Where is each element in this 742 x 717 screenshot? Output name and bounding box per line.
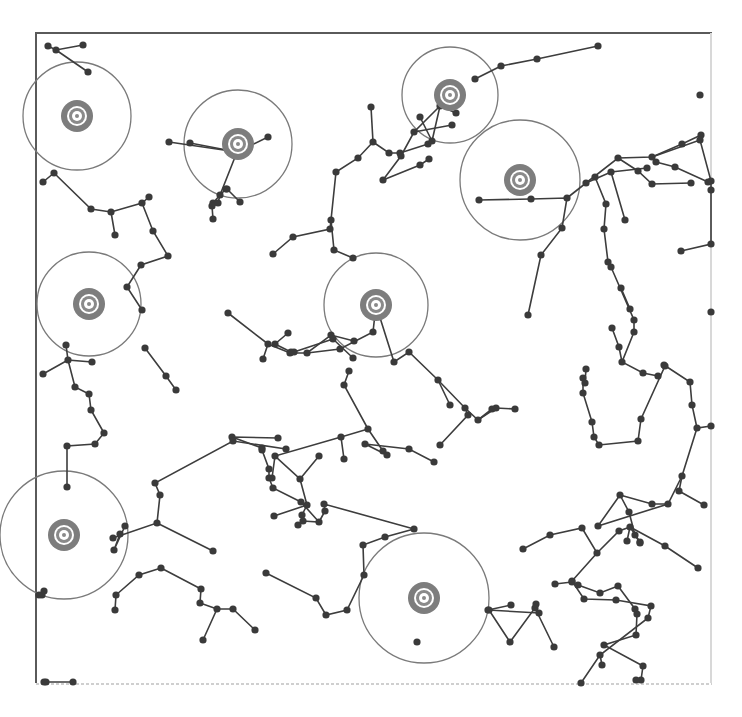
tree-edge xyxy=(440,408,468,445)
sensor-node xyxy=(707,186,714,193)
sensor-node xyxy=(532,600,539,607)
tree-edge xyxy=(113,441,286,538)
tree-edges xyxy=(42,45,711,683)
sensor-node xyxy=(700,501,707,508)
diagram-frame xyxy=(35,33,712,684)
sensor-node xyxy=(602,200,609,207)
sensor-node xyxy=(209,547,216,554)
tree-edge xyxy=(608,262,634,332)
sensor-node xyxy=(648,180,655,187)
target-icon xyxy=(504,164,536,196)
sensor-node xyxy=(448,121,455,128)
sensor-node xyxy=(196,599,203,606)
sensor-node xyxy=(109,534,116,541)
sensor-node xyxy=(687,179,694,186)
tree-edge xyxy=(157,523,213,551)
sensor-node xyxy=(593,549,600,556)
tree-edge xyxy=(273,220,331,254)
sensor-node xyxy=(367,103,374,110)
sensor-node xyxy=(350,337,357,344)
sensor-node xyxy=(623,537,630,544)
sensor-node xyxy=(164,252,171,259)
sensor-node xyxy=(297,498,304,505)
tree-edge xyxy=(475,66,501,79)
sensor-node xyxy=(369,328,376,335)
sensor-node xyxy=(607,263,614,270)
sensor-node xyxy=(62,341,69,348)
sensor-node xyxy=(675,487,682,494)
tree-edge xyxy=(203,609,217,640)
sensor-node xyxy=(85,390,92,397)
sensor-node xyxy=(507,601,514,608)
sensor-node xyxy=(636,539,643,546)
sensor-node xyxy=(688,401,695,408)
sensor-node xyxy=(44,42,51,49)
sensor-node xyxy=(327,216,334,223)
sensor-node xyxy=(91,440,98,447)
sensor-node xyxy=(296,475,303,482)
sensor-node xyxy=(340,455,347,462)
network-diagram xyxy=(0,0,742,717)
sensor-node xyxy=(574,581,581,588)
target-icon xyxy=(73,288,105,320)
sensor-node xyxy=(71,383,78,390)
sensor-node xyxy=(471,75,478,82)
sensor-node xyxy=(405,348,412,355)
target-center-dot xyxy=(62,533,66,537)
sensor-node xyxy=(671,163,678,170)
sensor-node xyxy=(694,564,701,571)
sensor-node xyxy=(416,161,423,168)
target-icon xyxy=(61,100,93,132)
sensor-node xyxy=(506,638,513,645)
sensor-node xyxy=(626,305,633,312)
sensor-node xyxy=(410,128,417,135)
tree-edge xyxy=(656,162,708,182)
sensor-node xyxy=(88,358,95,365)
sensor-node xyxy=(315,518,322,525)
sensor-node xyxy=(621,216,628,223)
sensor-node xyxy=(149,227,156,234)
sensor-node xyxy=(84,68,91,75)
tree-edge xyxy=(344,371,383,451)
sensor-node xyxy=(111,231,118,238)
sensor-node xyxy=(614,582,621,589)
sensor-node xyxy=(165,138,172,145)
target-center-dot xyxy=(448,93,452,97)
sensor-node xyxy=(138,199,145,206)
tree-edge xyxy=(681,190,711,251)
sensor-node xyxy=(537,251,544,258)
sensor-node xyxy=(461,404,468,411)
sensor-node xyxy=(223,185,230,192)
sensor-node xyxy=(594,42,601,49)
sensor-node xyxy=(259,355,266,362)
sensor-node xyxy=(209,215,216,222)
target-center-dot xyxy=(236,142,240,146)
tree-edge xyxy=(43,173,149,212)
target-center-dot xyxy=(75,114,79,118)
sensor-node xyxy=(298,511,305,518)
sensor-node xyxy=(157,564,164,571)
sensor-node xyxy=(582,365,589,372)
sensor-node xyxy=(618,358,625,365)
sensor-node xyxy=(262,569,269,576)
sensor-node xyxy=(519,545,526,552)
sensor-node xyxy=(474,416,481,423)
sensor-node xyxy=(661,542,668,549)
sensor-node xyxy=(652,158,659,165)
sensor-node xyxy=(123,283,130,290)
sensor-node xyxy=(35,591,42,598)
target-icon xyxy=(222,128,254,160)
sensor-node xyxy=(265,465,272,472)
sensor-node xyxy=(349,254,356,261)
sensor-node xyxy=(608,324,615,331)
tree-edge xyxy=(611,172,625,220)
sensor-node xyxy=(87,205,94,212)
sensor-node xyxy=(383,451,390,458)
sensor-node xyxy=(107,208,114,215)
sensor-node xyxy=(647,602,654,609)
sensor-node xyxy=(50,169,57,176)
sensor-node xyxy=(153,519,160,526)
sensor-node xyxy=(269,250,276,257)
sensor-node xyxy=(312,594,319,601)
sensor-node xyxy=(644,614,651,621)
